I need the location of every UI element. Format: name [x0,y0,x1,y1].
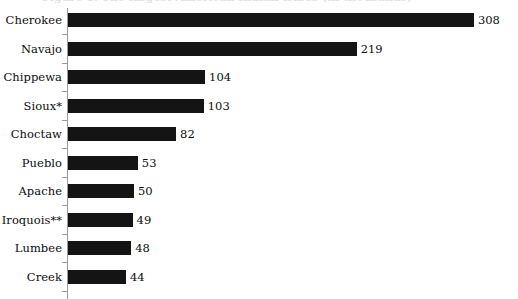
axis-tick [62,177,67,178]
axis-tick [62,34,67,35]
axis-tick [62,234,67,235]
bar-category-label: Lumbee [0,241,62,256]
bar-value-label: 53 [138,156,157,171]
bar [68,156,138,170]
bar-row: Iroquois**49 [0,213,518,228]
bar [68,13,474,27]
bar-category-label: Apache [0,184,62,199]
axis-tick [62,291,67,292]
bar [68,42,357,56]
bar [68,127,176,141]
bar [68,270,126,284]
axis-tick [62,148,67,149]
bar-category-label: Cherokee [0,13,62,28]
bar-category-label: Iroquois** [0,213,62,228]
bar-value-label: 44 [126,270,145,285]
bar-value-label: 103 [204,99,230,114]
bar [68,99,204,113]
bar-value-label: 308 [474,13,500,28]
axis-tick [62,262,67,263]
bar-row: Cherokee308 [0,13,518,28]
bar-value-label: 49 [133,213,152,228]
bar-category-label: Choctaw [0,127,62,142]
bar-category-label: Navajo [0,42,62,57]
bar-chart-figure: Figure 1. The largest American Indian tr… [0,0,518,299]
bar-row: Choctaw82 [0,127,518,142]
bar-row: Apache50 [0,184,518,199]
bar-category-label: Chippewa [0,70,62,85]
bar [68,70,205,84]
bar-row: Creek44 [0,270,518,285]
axis-tick [62,63,67,64]
bar-row: Navajo219 [0,42,518,57]
bar-row: Chippewa104 [0,70,518,85]
axis-tick [62,120,67,121]
bar [68,241,131,255]
bar-category-label: Sioux* [0,99,62,114]
bar [68,213,133,227]
bar-row: Lumbee48 [0,241,518,256]
bar-row: Sioux*103 [0,99,518,114]
bar-value-label: 82 [176,127,195,142]
bar-category-label: Creek [0,270,62,285]
bar-category-label: Pueblo [0,156,62,171]
plot-area: Cherokee308Navajo219Chippewa104Sioux*103… [0,0,518,299]
bar-value-label: 219 [357,42,383,57]
bar-row: Pueblo53 [0,156,518,171]
bar-value-label: 104 [205,70,231,85]
bar [68,184,134,198]
bar-value-label: 50 [134,184,153,199]
axis-tick [62,91,67,92]
bar-value-label: 48 [131,241,150,256]
axis-tick [62,205,67,206]
